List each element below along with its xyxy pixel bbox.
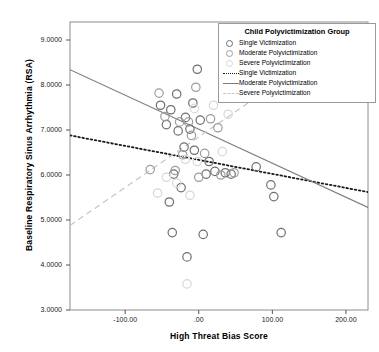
y-tick-label: 8.0000 (16, 81, 62, 88)
legend-entry[interactable]: Severe Polyvictimization (223, 88, 371, 98)
y-tick-label: 4.0000 (16, 261, 62, 268)
legend-line-solid-icon (223, 83, 239, 84)
legend-line-key (223, 68, 239, 78)
legend: Child Polyvictimization Group Single Vic… (218, 23, 376, 103)
legend-entry-label: Single Victimization (239, 38, 296, 48)
legend-line-key (223, 88, 239, 98)
scatter-plot-figure: Baseline Respiratory Sinus Arrhythmia (R… (0, 0, 379, 352)
legend-entry-label: Severe Polyvictimization (239, 88, 310, 98)
legend-entry-label: Moderate Polyvictimization (239, 48, 317, 58)
y-tick-label: 6.0000 (16, 171, 62, 178)
legend-entry[interactable]: Moderate Polyvictimization (223, 78, 371, 88)
legend-entries: Single VictimizationModerate Polyvictimi… (223, 38, 371, 98)
y-tick-label: 3.0000 (16, 306, 62, 313)
legend-marker-key (223, 58, 239, 68)
y-tick-label: 9.0000 (16, 36, 62, 43)
legend-entry-label: Single Victimization (239, 68, 296, 78)
legend-entry-label: Severe Polyvictimization (239, 58, 310, 68)
legend-line-dotted-icon (223, 73, 239, 74)
legend-marker-key (223, 38, 239, 48)
legend-title: Child Polyvictimization Group (223, 27, 371, 36)
y-tick-label: 7.0000 (16, 126, 62, 133)
x-tick-label: 100.00 (242, 316, 302, 323)
x-axis-title: High Threat Bias Score (70, 331, 368, 341)
legend-marker-circle-icon (226, 40, 233, 47)
legend-marker-circle-icon (226, 60, 233, 67)
x-tick-label: .00 (169, 316, 229, 323)
legend-entry[interactable]: Moderate Polyvictimization (223, 48, 371, 58)
legend-line-dashed-icon (223, 93, 239, 94)
x-tick-label: 200.00 (316, 316, 376, 323)
legend-line-key (223, 78, 239, 88)
legend-entry[interactable]: Severe Polyvictimization (223, 58, 371, 68)
y-tick-label: 5.0000 (16, 216, 62, 223)
legend-marker-key (223, 48, 239, 58)
legend-marker-circle-icon (226, 50, 233, 57)
legend-entry[interactable]: Single Victimization (223, 38, 371, 48)
legend-entry[interactable]: Single Victimization (223, 68, 371, 78)
y-axis-title: Baseline Respiratory Sinus Arrhythmia (R… (24, 40, 34, 270)
legend-entry-label: Moderate Polyvictimization (239, 78, 317, 88)
x-tick-label: -100.00 (95, 316, 155, 323)
